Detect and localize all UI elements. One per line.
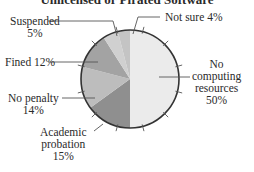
label-no-computing-resources: No computing resources 50%	[192, 58, 241, 106]
label-no-penalty: No penalty 14%	[8, 92, 59, 116]
label-not-sure: Not sure 4%	[165, 11, 223, 23]
label-suspended: Suspended 5%	[10, 15, 60, 39]
label-fined: Fined 12%	[5, 56, 55, 68]
pie-slice	[130, 30, 179, 128]
label-academic-probation: Academic probation 15%	[40, 126, 87, 162]
